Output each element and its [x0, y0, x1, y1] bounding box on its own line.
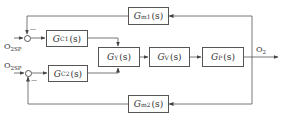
setpoint-label-2: O2SP	[4, 61, 22, 71]
block-gy: GY(s)	[98, 47, 140, 67]
block-gp: GP(s)	[202, 47, 244, 67]
output-label: O2	[256, 45, 266, 55]
summing-junction-1	[24, 35, 31, 42]
block-gv: GV(s)	[149, 47, 190, 67]
block-gm2: Gm2(s)	[128, 95, 169, 113]
block-gc2: GC2(s)	[48, 65, 88, 82]
block-gm1: Gm1(s)	[128, 7, 169, 25]
minus-sign-1: —	[30, 25, 36, 32]
block-gc1: GC1(s)	[46, 30, 88, 47]
minus-sign-2: —	[31, 76, 37, 83]
setpoint-label-1: O2SP	[4, 42, 22, 52]
